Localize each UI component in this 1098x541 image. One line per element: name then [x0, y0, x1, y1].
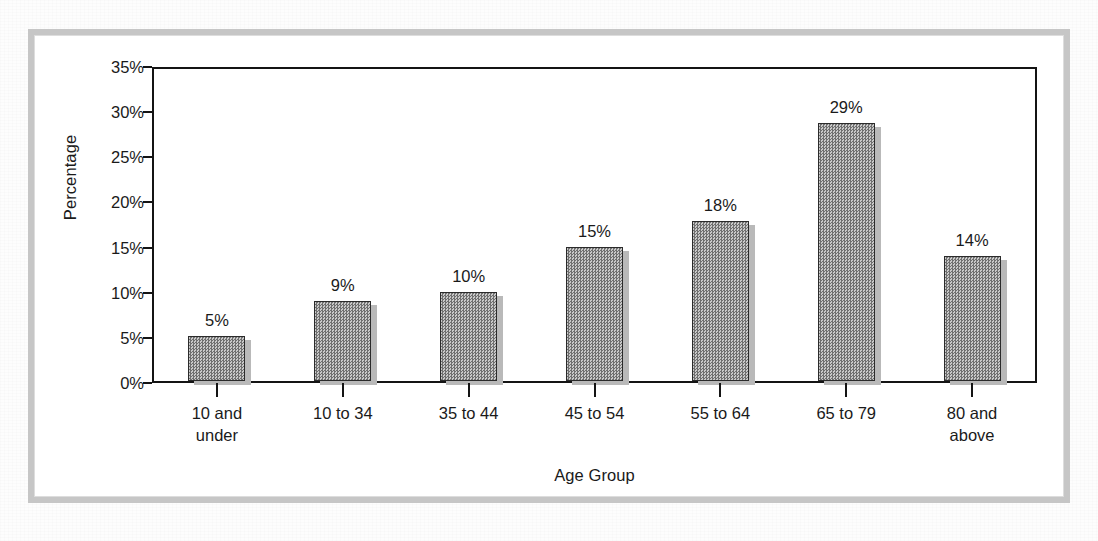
bar-slot: 14%	[944, 69, 1001, 381]
y-axis-title: Percentage	[61, 103, 80, 253]
x-axis-tick-mark	[468, 383, 470, 397]
bar-slot: 5%	[188, 69, 245, 381]
y-axis-tick-mark	[143, 66, 152, 68]
y-axis-tick-label: 25%	[84, 148, 144, 167]
x-axis-title: Age Group	[152, 466, 1037, 485]
bar	[314, 301, 371, 381]
x-axis-tick-marks	[152, 383, 1037, 399]
y-axis-tick-mark	[143, 111, 152, 113]
bar-slot: 18%	[692, 69, 749, 381]
x-axis-tick-label: 80 andabove	[897, 402, 1047, 446]
y-axis-tick-mark	[143, 382, 152, 384]
y-axis-tick-mark	[143, 156, 152, 158]
x-axis-tick-mark	[845, 383, 847, 397]
y-axis-tick-mark	[143, 337, 152, 339]
y-axis-tick-label: 35%	[84, 58, 144, 77]
bar	[566, 247, 623, 381]
bar-chart-figure: Percentage 0%5%10%15%20%25%30%35% 5%9%10…	[0, 0, 1098, 541]
bar-slot: 10%	[440, 69, 497, 381]
bar-slot: 15%	[566, 69, 623, 381]
bar	[818, 123, 875, 382]
y-axis-tick-label: 0%	[84, 374, 144, 393]
x-axis-tick-mark	[971, 383, 973, 397]
y-axis-tick-label: 5%	[84, 328, 144, 347]
x-axis-tick-mark	[594, 383, 596, 397]
bar-value-label: 5%	[205, 311, 229, 330]
y-axis-tick-mark	[143, 292, 152, 294]
x-axis-tick-labels: 10 andunder10 to 3435 to 4445 to 5455 to…	[152, 402, 1037, 458]
y-axis-tick-label: 20%	[84, 193, 144, 212]
bar-value-label: 29%	[830, 98, 863, 117]
bar-slot: 9%	[314, 69, 371, 381]
bar	[692, 221, 749, 381]
y-axis-tick-label: 30%	[84, 103, 144, 122]
bar-value-label: 10%	[452, 267, 485, 286]
y-axis-tick-label: 15%	[84, 238, 144, 257]
bar-value-label: 9%	[331, 276, 355, 295]
x-axis-tick-mark	[342, 383, 344, 397]
y-axis-tick-labels: 0%5%10%15%20%25%30%35%	[82, 67, 144, 383]
bar-value-label: 14%	[956, 231, 989, 250]
bar	[944, 256, 1001, 381]
x-axis-tick-mark	[719, 383, 721, 397]
y-axis-tick-mark	[143, 247, 152, 249]
bar-value-label: 18%	[704, 196, 737, 215]
x-axis-tick-mark	[216, 383, 218, 397]
bar-slot: 29%	[818, 69, 875, 381]
bar-value-label: 15%	[578, 222, 611, 241]
bar	[188, 336, 245, 381]
bars-layer: 5%9%10%15%18%29%14%	[154, 69, 1035, 381]
y-axis-tick-label: 10%	[84, 283, 144, 302]
y-axis-tick-mark	[143, 201, 152, 203]
bar	[440, 292, 497, 381]
